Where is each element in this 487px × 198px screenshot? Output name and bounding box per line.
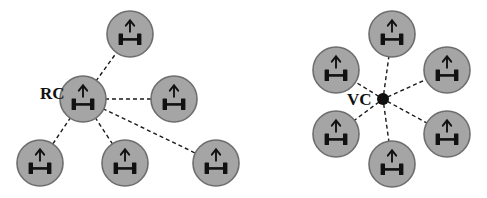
robot-body-circle [193,140,239,186]
robot-body-circle [313,47,359,93]
robot-body-circle [424,47,470,93]
rc-follower-bottom-center[interactable] [102,140,148,186]
robot-body-circle [60,76,106,122]
rc-label: RC [40,84,65,103]
vc-robot-upper-right[interactable] [424,47,470,93]
vc-robot-lower-right[interactable] [424,111,470,157]
formation-diagram-canvas: RCVC [0,0,487,198]
robot-body-circle [369,11,415,57]
vc-hub-dot[interactable] [377,93,389,105]
robot-body-circle [369,141,415,187]
figure-root: RCVC [0,0,487,198]
robot-body-circle [313,111,359,157]
vc-robot-top[interactable] [369,11,415,57]
robot-body-circle [102,140,148,186]
robot-body-circle [107,11,153,57]
rc-leader-robot[interactable] [60,76,106,122]
vc-robot-lower-left[interactable] [313,111,359,157]
vc-robot-bottom[interactable] [369,141,415,187]
rc-follower-right[interactable] [151,76,197,122]
vc-robot-upper-left[interactable] [313,47,359,93]
vc-label: VC [347,90,372,109]
rc-follower-bottom-left[interactable] [17,140,63,186]
rc-follower-bottom-right[interactable] [193,140,239,186]
robot-body-circle [17,140,63,186]
robot-body-circle [424,111,470,157]
rc-follower-top[interactable] [107,11,153,57]
robot-body-circle [151,76,197,122]
